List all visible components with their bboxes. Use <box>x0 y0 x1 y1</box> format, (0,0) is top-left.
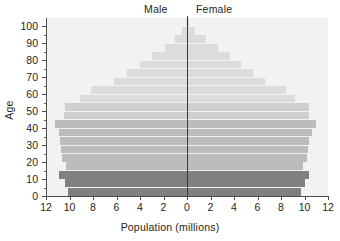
y-tick-label-4: 40 <box>2 122 38 134</box>
y-tick-10 <box>42 26 46 27</box>
x-tick-label-2: 8 <box>82 201 104 213</box>
bar-female-45 <box>187 112 309 120</box>
y-tick-label-10: 100 <box>2 20 38 32</box>
bar-female-20 <box>187 154 307 162</box>
bar-male-20 <box>62 154 187 162</box>
bar-female-35 <box>187 129 312 137</box>
bar-male-15 <box>66 162 187 170</box>
x-tick-label-0: 12 <box>35 201 57 213</box>
y-tick-5 <box>42 111 46 112</box>
y-axis-line <box>46 18 47 196</box>
y-tick-minor-45 <box>44 120 47 121</box>
bar-female-60 <box>187 86 286 94</box>
center-axis-line <box>187 16 188 196</box>
y-tick-minor-75 <box>44 69 47 70</box>
x-tick-4 <box>140 196 141 200</box>
bar-female-15 <box>187 162 303 170</box>
bar-male-40 <box>55 120 187 128</box>
y-tick-6 <box>42 94 46 95</box>
bar-male-55 <box>80 95 187 103</box>
y-tick-7 <box>42 77 46 78</box>
x-tick-12 <box>328 196 329 200</box>
y-tick-label-1: 10 <box>2 173 38 185</box>
y-tick-minor-15 <box>44 171 47 172</box>
x-tick-10 <box>281 196 282 200</box>
bar-female-10 <box>187 171 309 179</box>
y-tick-label-8: 80 <box>2 54 38 66</box>
y-tick-label-0: 0 <box>2 190 38 202</box>
y-tick-minor-65 <box>44 86 47 87</box>
male-series-label: Male <box>144 3 168 15</box>
x-tick-label-12: 12 <box>317 201 339 213</box>
bar-female-25 <box>187 146 308 154</box>
y-tick-label-3: 30 <box>2 139 38 151</box>
bar-male-35 <box>59 129 187 137</box>
bar-female-30 <box>187 137 309 145</box>
x-tick-label-11: 10 <box>294 201 316 213</box>
x-tick-9 <box>258 196 259 200</box>
y-tick-label-7: 70 <box>2 71 38 83</box>
bar-male-75 <box>140 61 187 69</box>
x-tick-label-8: 4 <box>223 201 245 213</box>
bar-female-55 <box>187 95 295 103</box>
x-tick-label-3: 6 <box>106 201 128 213</box>
x-tick-label-5: 2 <box>153 201 175 213</box>
x-tick-label-6: 0 <box>176 201 198 213</box>
bar-female-40 <box>187 120 316 128</box>
population-pyramid-chart: Male Female Age 12108642024681012 010203… <box>0 0 340 241</box>
x-tick-8 <box>234 196 235 200</box>
x-tick-label-4: 4 <box>129 201 151 213</box>
y-tick-minor-85 <box>44 52 47 53</box>
y-tick-label-2: 20 <box>2 156 38 168</box>
bar-male-50 <box>65 103 187 111</box>
x-tick-label-7: 2 <box>200 201 222 213</box>
y-tick-1 <box>42 179 46 180</box>
y-tick-3 <box>42 145 46 146</box>
x-tick-1 <box>70 196 71 200</box>
y-tick-9 <box>42 43 46 44</box>
x-tick-3 <box>117 196 118 200</box>
bar-female-0 <box>187 188 301 196</box>
bar-female-65 <box>187 78 265 86</box>
x-axis-title: Population (millions) <box>0 221 340 233</box>
bar-male-5 <box>65 179 187 187</box>
bar-male-45 <box>64 112 187 120</box>
y-tick-minor-55 <box>44 103 47 104</box>
x-tick-11 <box>305 196 306 200</box>
y-tick-label-9: 90 <box>2 37 38 49</box>
bar-male-10 <box>59 171 187 179</box>
female-series-label: Female <box>196 3 232 15</box>
y-tick-minor-25 <box>44 154 47 155</box>
bar-male-0 <box>68 188 187 196</box>
y-tick-minor-95 <box>44 35 47 36</box>
x-tick-label-10: 8 <box>270 201 292 213</box>
bar-male-70 <box>127 69 187 77</box>
bar-male-80 <box>152 52 187 60</box>
bar-male-85 <box>165 44 187 52</box>
bar-female-70 <box>187 69 253 77</box>
y-tick-8 <box>42 60 46 61</box>
y-tick-2 <box>42 162 46 163</box>
bar-male-25 <box>61 146 187 154</box>
bar-female-75 <box>187 61 241 69</box>
bar-male-60 <box>91 86 187 94</box>
y-tick-label-5: 50 <box>2 105 38 117</box>
bar-female-50 <box>187 103 309 111</box>
y-tick-label-6: 60 <box>2 88 38 100</box>
x-tick-2 <box>93 196 94 200</box>
y-tick-minor-35 <box>44 137 47 138</box>
bar-male-90 <box>175 35 187 43</box>
x-tick-label-1: 10 <box>59 201 81 213</box>
bar-female-80 <box>187 52 230 60</box>
x-tick-5 <box>164 196 165 200</box>
y-tick-4 <box>42 128 46 129</box>
bar-female-5 <box>187 179 305 187</box>
bar-female-90 <box>187 35 206 43</box>
y-tick-minor-5 <box>44 188 47 189</box>
bar-male-30 <box>60 137 187 145</box>
x-tick-label-9: 6 <box>247 201 269 213</box>
bar-female-85 <box>187 44 218 52</box>
x-tick-0 <box>46 196 47 200</box>
x-tick-6 <box>187 196 188 200</box>
y-tick-0 <box>42 196 46 197</box>
